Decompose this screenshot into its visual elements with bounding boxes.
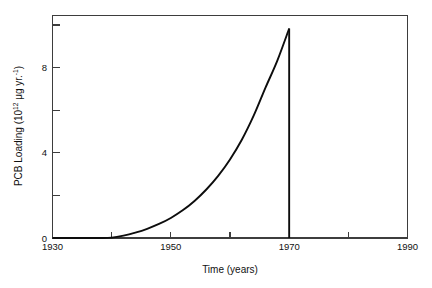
x-tick-label-1950: 1950	[160, 241, 181, 252]
y-axis-title-middle: μg yr.	[13, 75, 24, 102]
x-tick-label-1930: 1930	[42, 241, 63, 252]
y-axis-title: PCB Loading (1012 μg yr.-1)	[12, 66, 24, 186]
y-axis-title-suffix: )	[13, 66, 24, 69]
y-tick-label-4: 4	[42, 147, 47, 158]
x-axis-title: Time (years)	[202, 264, 258, 275]
plot-frame	[53, 16, 408, 239]
data-curve-pcb-loading	[53, 29, 290, 239]
chart-figure: 0 4 8 1930 1950 1970 1990 Time (years) P…	[0, 0, 432, 288]
y-tick-label-8: 8	[42, 62, 47, 73]
pcb-loading-line-chart: 0 4 8 1930 1950 1970 1990 Time (years) P…	[0, 0, 432, 288]
y-axis-title-prefix: PCB Loading (10	[13, 109, 24, 186]
x-tick-label-1990: 1990	[397, 241, 418, 252]
y-axis-ticks	[53, 25, 60, 238]
y-axis-tick-labels: 0 4 8	[42, 62, 47, 243]
x-axis-tick-labels: 1930 1950 1970 1990	[42, 241, 418, 252]
x-tick-label-1970: 1970	[279, 241, 300, 252]
